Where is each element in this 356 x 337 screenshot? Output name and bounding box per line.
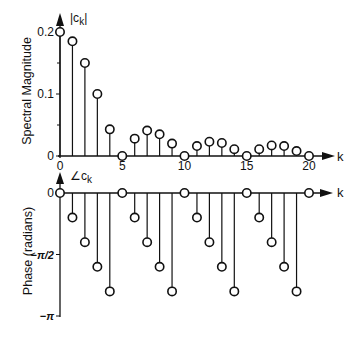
magnitude-stem-marker (267, 141, 275, 149)
magnitude-stem-marker (106, 125, 114, 133)
magnitude-stem-marker (68, 37, 76, 45)
magnitude-stem-marker (230, 145, 238, 153)
phase-plot: 0−π/2−π (31, 172, 333, 322)
magnitude-stem-marker (155, 130, 163, 138)
phase-stem-marker (205, 238, 213, 246)
magnitude-plot: 00.10.205101520 (37, 13, 335, 173)
magnitude-x-tick-label: 15 (240, 159, 254, 173)
phase-stem-marker (267, 238, 275, 246)
magnitude-y-tick-label: 0.1 (37, 87, 54, 101)
magnitude-stem-marker (93, 90, 101, 98)
phase-stem-marker (180, 189, 188, 197)
phase-stem-marker (193, 213, 201, 221)
stem-plot-figure: 00.10.205101520 0−π/2−π Spectral Magnitu… (0, 0, 356, 337)
magnitude-stem-marker (180, 152, 188, 160)
magnitude-stem-marker (218, 139, 226, 147)
magnitude-stem-marker (280, 142, 288, 150)
phase-stem-marker (230, 287, 238, 295)
phase-stem-marker (81, 238, 89, 246)
phase-y-axis-arrow-icon (56, 172, 64, 184)
phase-y-tick-label: −π (40, 310, 54, 322)
phase-x-axis-label: k (337, 185, 344, 200)
phase-stem-marker (255, 213, 263, 221)
phase-stem-marker (106, 287, 114, 295)
phase-series-label: ∠ck (70, 169, 92, 185)
phase-stem-marker (93, 263, 101, 271)
magnitude-stem-marker (143, 126, 151, 134)
magnitude-stem-marker (193, 142, 201, 150)
magnitude-stem-marker (292, 147, 300, 155)
phase-stem-marker (118, 189, 126, 197)
magnitude-y-axis-label: Spectral Magnitude (20, 36, 34, 146)
magnitude-x-tick-label: 0 (57, 159, 64, 173)
magnitude-y-axis-arrow-icon (56, 13, 64, 26)
magnitude-x-axis-label: k (337, 149, 344, 164)
phase-stem-marker (155, 263, 163, 271)
magnitude-y-tick-label: 0.2 (37, 25, 54, 39)
magnitude-x-tick-label: 10 (178, 159, 192, 173)
magnitude-stem-marker (118, 152, 126, 160)
magnitude-x-tick-label: 20 (302, 159, 316, 173)
magnitude-stem-marker (243, 152, 251, 160)
phase-stem-marker (305, 189, 313, 197)
phase-stem-marker (292, 287, 300, 295)
magnitude-stem-marker (168, 139, 176, 147)
phase-stem-marker (68, 213, 76, 221)
magnitude-stem-marker (56, 28, 64, 36)
magnitude-y-tick-label: 0 (47, 149, 54, 163)
magnitude-x-tick-label: 5 (119, 159, 126, 173)
phase-y-axis-label: Phase (radians) (21, 201, 35, 301)
magnitude-x-axis-arrow-icon (322, 152, 335, 160)
phase-x-axis-arrow-icon (320, 189, 333, 197)
magnitude-series-label: |ck| (70, 11, 87, 27)
phase-stem-marker (218, 263, 226, 271)
phase-stem-marker (168, 287, 176, 295)
phase-stem-marker (280, 263, 288, 271)
magnitude-stem-marker (205, 138, 213, 146)
phase-stem-marker (143, 238, 151, 246)
phase-stem-marker (131, 213, 139, 221)
phase-stem-marker (243, 189, 251, 197)
magnitude-stem-marker (81, 59, 89, 67)
phase-stem-marker (56, 189, 64, 197)
magnitude-stem-marker (255, 145, 263, 153)
plot-canvas: 00.10.205101520 0−π/2−π (0, 0, 356, 337)
phase-y-tick-label: 0 (47, 186, 54, 200)
magnitude-stem-marker (305, 152, 313, 160)
magnitude-stem-marker (131, 134, 139, 142)
